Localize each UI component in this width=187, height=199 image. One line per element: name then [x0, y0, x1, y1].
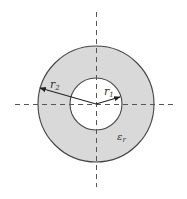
coax-diagram: r2 r1 εr: [0, 0, 187, 199]
